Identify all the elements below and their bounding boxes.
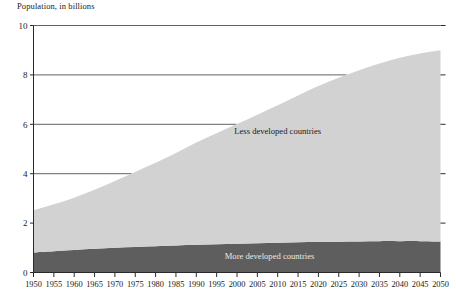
population-area-chart-figure: Population, in billions 0246810 19501955… (0, 0, 456, 293)
x-tick-label-2025: 2025 (330, 280, 347, 289)
y-tick-label-10: 10 (19, 21, 29, 31)
y-tick-label-0: 0 (23, 268, 28, 278)
more-developed-label: More developed countries (225, 251, 315, 261)
x-tick-label-2050: 2050 (432, 280, 449, 289)
y-axis-right-ticks-group (441, 26, 446, 224)
chart-title: Population, in billions (17, 1, 95, 11)
area-series-1 (34, 50, 441, 252)
x-tick-label-1995: 1995 (208, 280, 225, 289)
x-tick-label-1985: 1985 (168, 280, 185, 289)
x-tick-label-1960: 1960 (66, 280, 83, 289)
y-tick-label-2: 2 (23, 218, 28, 228)
y-tick-label-4: 4 (23, 169, 28, 179)
x-tick-label-1950: 1950 (25, 280, 42, 289)
x-tick-label-2010: 2010 (269, 280, 286, 289)
x-tick-label-1970: 1970 (107, 280, 124, 289)
chart-canvas: 0246810 19501955196019651970197519801985… (0, 0, 456, 293)
y-axis-ticks-group (30, 26, 34, 273)
area-series-group (34, 50, 441, 272)
y-axis-tick-labels-group: 0246810 (19, 21, 29, 278)
y-tick-label-6: 6 (23, 120, 28, 130)
x-tick-label-2020: 2020 (310, 280, 327, 289)
x-tick-label-1990: 1990 (188, 280, 205, 289)
x-tick-label-2045: 2045 (412, 280, 429, 289)
x-tick-label-2015: 2015 (290, 280, 307, 289)
x-tick-label-2030: 2030 (351, 280, 368, 289)
less-developed-label: Less developed countries (234, 126, 322, 136)
x-tick-label-1975: 1975 (127, 280, 144, 289)
y-tick-label-8: 8 (23, 70, 28, 80)
x-tick-label-1965: 1965 (86, 280, 103, 289)
x-tick-label-1955: 1955 (45, 280, 62, 289)
x-tick-label-2005: 2005 (249, 280, 266, 289)
x-tick-label-2000: 2000 (229, 280, 246, 289)
x-axis-ticks-group (34, 273, 441, 278)
x-tick-label-1980: 1980 (147, 280, 164, 289)
x-tick-label-2040: 2040 (391, 280, 408, 289)
x-axis-tick-labels-group: 1950195519601965197019751980198519901995… (25, 280, 449, 289)
x-tick-label-2035: 2035 (371, 280, 388, 289)
